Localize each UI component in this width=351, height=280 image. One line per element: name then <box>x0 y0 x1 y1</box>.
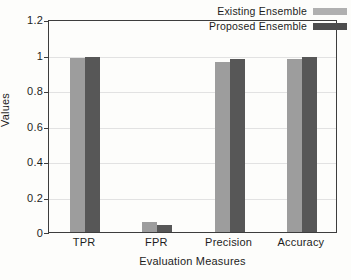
bar-proposed <box>302 57 317 232</box>
x-axis-title: Evaluation Measures <box>48 255 337 267</box>
chart-legend: Existing EnsembleProposed Ensemble <box>205 3 349 34</box>
plot-area <box>48 20 337 233</box>
y-tick-label: 0 <box>37 227 43 239</box>
bar-group <box>142 21 172 232</box>
y-tick-label: 0.8 <box>27 85 43 97</box>
legend-swatch-existing <box>313 8 347 15</box>
y-tick-mark <box>44 233 49 234</box>
bar-group <box>287 21 317 232</box>
bar-proposed <box>157 225 172 232</box>
y-tick-mark <box>44 57 49 58</box>
y-tick-label: 0.2 <box>27 192 43 204</box>
x-tick-label: FPR <box>145 236 168 248</box>
y-tick-mark <box>44 199 49 200</box>
y-tick-mark <box>44 163 49 164</box>
legend-entry: Proposed Ensemble <box>209 20 347 32</box>
legend-entry: Existing Ensemble <box>209 5 347 17</box>
bar-chart-figure: 00.20.40.60.811.2 Values TPRFPRPrecision… <box>0 0 351 280</box>
y-axis-title: Values <box>0 93 11 127</box>
bar-proposed <box>230 59 245 232</box>
bar-proposed <box>85 57 100 232</box>
x-axis-ticks: TPRFPRPrecisionAccuracy <box>48 236 337 252</box>
bar-group <box>70 21 100 232</box>
x-tick-label: TPR <box>73 236 96 248</box>
y-tick-label: 0.4 <box>27 156 43 168</box>
bar-existing <box>142 222 157 232</box>
legend-swatch-proposed <box>313 23 347 30</box>
x-tick-label: Precision <box>205 236 252 248</box>
y-tick-label: 0.6 <box>27 121 43 133</box>
bar-existing <box>287 59 302 232</box>
bar-group <box>215 21 245 232</box>
bar-existing <box>70 58 85 232</box>
y-tick-label: 1.2 <box>27 14 43 26</box>
legend-label: Proposed Ensemble <box>209 20 307 32</box>
y-tick-mark <box>44 128 49 129</box>
y-tick-mark <box>44 92 49 93</box>
y-tick-label: 1 <box>37 50 43 62</box>
legend-label: Existing Ensemble <box>217 5 307 17</box>
bar-existing <box>215 62 230 232</box>
y-tick-mark <box>44 21 49 22</box>
x-tick-label: Accuracy <box>277 236 324 248</box>
